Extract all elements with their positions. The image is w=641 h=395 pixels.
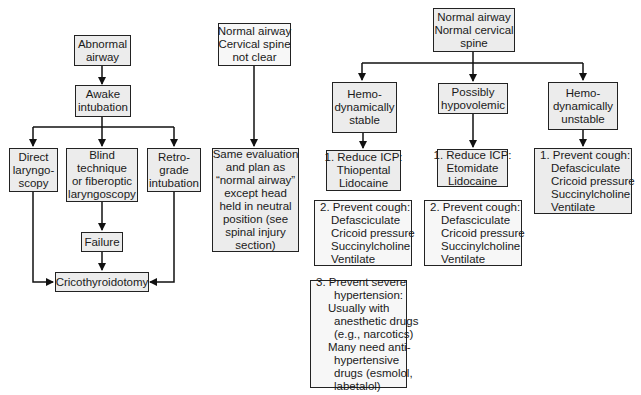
box-text: Defasciculate (320, 214, 411, 227)
box-text: Blind (89, 149, 115, 162)
box-text: Failure (84, 236, 119, 249)
failure-box: Failure (81, 232, 123, 252)
box-text: or fiberoptic (72, 175, 132, 188)
box-text: Lidocaine (448, 175, 497, 188)
hemodynamically-stable-box: Hemo- dynamically stable (332, 82, 397, 133)
box-text: 2. Prevent cough: (320, 201, 411, 214)
abnormal-airway-box: Abnormal airway (74, 35, 131, 66)
box-text: hypovolemic (441, 99, 505, 112)
same-evaluation-box: Same evaluation and plan as “normal airw… (212, 148, 299, 252)
box-text: hypertensive (316, 354, 406, 367)
box-text: (e.g., narcotics) (316, 328, 406, 341)
box-text: 2. Prevent cough: (430, 201, 521, 214)
box-text: Awake (86, 88, 120, 101)
box-text: laryngo- (13, 164, 55, 177)
box-text: Many need anti- (316, 341, 406, 354)
box-text: Hemo- (347, 88, 382, 101)
box-text: Normal airway (437, 11, 511, 24)
unstable-prevent-cough-box: 1. Prevent cough: Defasciculate Cricoid … (534, 148, 632, 214)
box-text: dynamically (334, 101, 394, 114)
stable-prevent-cough-box: 2. Prevent cough: Defasciculate Cricoid … (314, 200, 412, 266)
box-text: 1. Reduce ICP: (325, 151, 403, 164)
box-text: Same evaluation (213, 148, 299, 161)
box-text: spine (460, 37, 488, 50)
direct-laryngoscopy-box: Direct laryngo- scopy (9, 148, 58, 192)
box-text: 1. Prevent cough: (540, 149, 631, 162)
box-text: Normal airway (218, 25, 292, 38)
box-text: Direct (18, 151, 48, 164)
box-text: drugs (esmolol, (316, 367, 406, 380)
possibly-hypovolemic-box: Possibly hypovolemic (438, 83, 508, 114)
box-text: Usually with (316, 302, 406, 315)
box-text: Thiopental (337, 164, 391, 177)
box-text: labetalol) (316, 380, 406, 393)
box-text: position (see (223, 213, 288, 226)
box-text: Succinylcholine (320, 240, 411, 253)
box-text: Normal cervical (434, 24, 513, 37)
retrograde-intubation-box: Retro- grade intubation (147, 148, 201, 192)
awake-intubation-box: Awake intubation (75, 85, 131, 117)
blind-fiberoptic-box: Blind technique or fiberoptic laryngosco… (66, 148, 138, 202)
box-text: technique (77, 162, 127, 175)
airway-management-flowchart: Abnormal airway Awake intubation Direct … (0, 0, 641, 395)
hypovolemic-reduce-icp-box: 1. Reduce ICP: Etomidate Lidocaine (437, 149, 508, 187)
normal-airway-normal-cspine-box: Normal airway Normal cervical spine (433, 8, 515, 52)
box-text: Lidocaine (339, 177, 388, 190)
box-text: anesthetic drugs (316, 315, 406, 328)
cricothyroidotomy-box: Cricothyroidotomy (55, 272, 149, 292)
box-text: except head (224, 187, 287, 200)
box-text: Cricoid pressure (320, 227, 411, 240)
stable-prevent-hypertension-box: 3. Prevent severe hypertension: Usually … (310, 280, 407, 388)
box-text: held in neutral (219, 200, 291, 213)
box-text: Cricoid pressure (430, 227, 521, 240)
box-text: Etomidate (447, 162, 499, 175)
stable-reduce-icp-box: 1. Reduce ICP: Thiopental Lidocaine (326, 150, 401, 191)
box-text: Cricoid pressure (540, 175, 631, 188)
box-text: dynamically (553, 100, 613, 113)
box-text: spinal injury (225, 226, 286, 239)
box-text: not clear (232, 51, 276, 64)
box-text: airway (86, 51, 119, 64)
hemodynamically-unstable-box: Hemo- dynamically unstable (548, 82, 618, 130)
box-text: 1. Reduce ICP: (434, 149, 512, 162)
box-text: Succinylcholine (540, 188, 631, 201)
box-text: Succinylcholine (430, 240, 521, 253)
box-text: laryngoscopy (68, 188, 136, 201)
box-text: 3. Prevent severe (316, 276, 406, 289)
box-text: scopy (18, 177, 48, 190)
box-text: “normal airway” (216, 174, 295, 187)
box-text: and plan as (226, 161, 285, 174)
box-text: Ventilate (540, 201, 631, 214)
box-text: Defasciculate (540, 162, 631, 175)
box-text: intubation (149, 177, 199, 190)
box-text: Hemo- (566, 87, 601, 100)
box-text: Cricothyroidotomy (56, 276, 149, 289)
box-text: grade (159, 164, 188, 177)
box-text: Ventilate (430, 253, 521, 266)
box-text: Abnormal (78, 38, 127, 51)
box-text: intubation (78, 101, 128, 114)
box-text: Defasciculate (430, 214, 521, 227)
box-text: Possibly (452, 86, 495, 99)
box-text: hypertension: (316, 289, 406, 302)
hypovolemic-prevent-cough-box: 2. Prevent cough: Defasciculate Cricoid … (424, 200, 522, 266)
box-text: Cervical spine (218, 38, 290, 51)
box-text: section) (235, 239, 275, 252)
cspine-not-clear-box: Normal airway Cervical spine not clear (218, 23, 291, 66)
box-text: Retro- (158, 151, 190, 164)
box-text: stable (349, 114, 380, 127)
box-text: unstable (561, 113, 604, 126)
box-text: Ventilate (320, 253, 411, 266)
